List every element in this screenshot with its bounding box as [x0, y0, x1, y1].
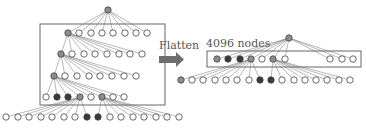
- tree-node: [118, 114, 124, 120]
- tree-node: [127, 51, 133, 57]
- tree-node: [291, 77, 297, 83]
- tree-node: [313, 77, 319, 83]
- tree-node: [61, 114, 67, 120]
- tree-node: [77, 94, 83, 100]
- tree-node: [99, 94, 105, 100]
- tree-node: [104, 51, 110, 57]
- tree-node: [200, 77, 206, 83]
- tree-node: [65, 94, 71, 100]
- tree-node: [72, 114, 78, 120]
- tree-node: [97, 73, 103, 79]
- tree-node: [88, 30, 94, 36]
- tree-node: [327, 56, 333, 62]
- tree-node: [74, 73, 80, 79]
- tree-node: [26, 114, 32, 120]
- tree-node: [248, 56, 254, 62]
- node-count-label: 4096 nodes: [206, 37, 270, 50]
- tree-node: [43, 94, 49, 100]
- tree-node: [95, 114, 101, 120]
- tree-node: [88, 94, 94, 100]
- tree-node: [279, 77, 285, 83]
- tree-node: [259, 56, 265, 62]
- tree-flatten-diagram: Flatten 4096 nodes: [0, 0, 366, 130]
- flatten-label: Flatten: [159, 39, 199, 52]
- flatten-arrow-icon: [159, 52, 184, 67]
- tree-node: [38, 114, 44, 120]
- tree-node: [257, 77, 263, 83]
- tree-node: [223, 77, 229, 83]
- tree-node: [324, 77, 330, 83]
- tree-node: [347, 77, 353, 83]
- tree-node: [141, 114, 147, 120]
- tree-node: [282, 56, 288, 62]
- tree-node: [246, 77, 252, 83]
- tree-node: [122, 30, 128, 36]
- tree-node: [336, 77, 342, 83]
- tree-node: [225, 56, 231, 62]
- tree-node: [58, 51, 64, 57]
- tree-node: [133, 30, 139, 36]
- tree-node: [86, 73, 92, 79]
- tree-node: [164, 114, 170, 120]
- tree-node: [3, 114, 9, 120]
- tree-node: [234, 77, 240, 83]
- tree-node: [84, 114, 90, 120]
- tree-node: [189, 77, 195, 83]
- tree-node: [350, 56, 356, 62]
- tree-node: [270, 56, 276, 62]
- tree-node: [237, 56, 243, 62]
- tree-node: [133, 73, 139, 79]
- tree-node: [99, 30, 105, 36]
- tree-node: [286, 35, 292, 41]
- tree-node: [65, 30, 71, 36]
- tree-node: [214, 56, 220, 62]
- tree-node: [116, 51, 122, 57]
- tree-node: [139, 51, 145, 57]
- boxes: [40, 24, 361, 105]
- tree-node: [212, 77, 218, 83]
- tree-node: [51, 73, 57, 79]
- tree-node: [121, 94, 127, 100]
- tree-node: [107, 114, 113, 120]
- tree-node: [105, 7, 111, 13]
- tree-node: [92, 51, 98, 57]
- tree-node: [15, 114, 21, 120]
- tree-node: [62, 73, 68, 79]
- tree-node: [110, 94, 116, 100]
- tree-node: [153, 114, 159, 120]
- tree-node: [54, 94, 60, 100]
- tree-node: [81, 51, 87, 57]
- tree-node: [144, 30, 150, 36]
- tree-node: [76, 30, 82, 36]
- tree-node: [130, 114, 136, 120]
- tree-node: [121, 73, 127, 79]
- diagram-canvas: [0, 0, 366, 130]
- tree-node: [176, 114, 182, 120]
- tree-node: [110, 30, 116, 36]
- tree-node: [69, 51, 75, 57]
- tree-node: [302, 77, 308, 83]
- tree-node: [109, 73, 115, 79]
- tree-node: [339, 56, 345, 62]
- tree-node: [178, 77, 184, 83]
- tree-node: [49, 114, 55, 120]
- tree-node: [268, 77, 274, 83]
